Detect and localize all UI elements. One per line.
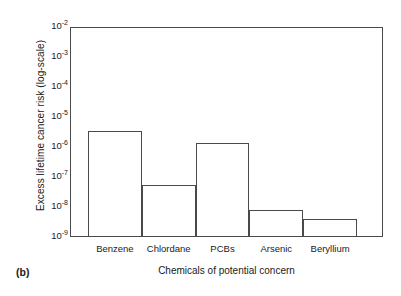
y-tick-label: 10-9 [8,230,68,241]
y-tick-label: 10-7 [8,170,68,181]
y-tick-label: 10-5 [8,110,68,121]
y-tick-label: 10-6 [8,140,68,151]
y-tick-label: 10-2 [8,20,68,31]
y-tick-label: 10-4 [8,80,68,91]
x-axis-title: Chemicals of potential concern [70,265,383,276]
y-tick-label: 10-8 [8,200,68,211]
bar [249,210,303,237]
x-tick-label: Beryllium [303,243,357,254]
bar [88,131,142,237]
bar [303,219,357,237]
x-tick-label: PCBs [196,243,250,254]
x-tick-label: Arsenic [249,243,303,254]
y-tick-label: 10-3 [8,50,68,61]
x-tick-label: Benzene [88,243,142,254]
bar [196,143,250,237]
panel-label: (b) [16,266,29,278]
bar [142,185,196,237]
x-tick-label: Chlordane [142,243,196,254]
bar-series [70,27,383,237]
figure-panel-b: Excess lifetime cancer risk (log-scale) … [0,0,401,296]
